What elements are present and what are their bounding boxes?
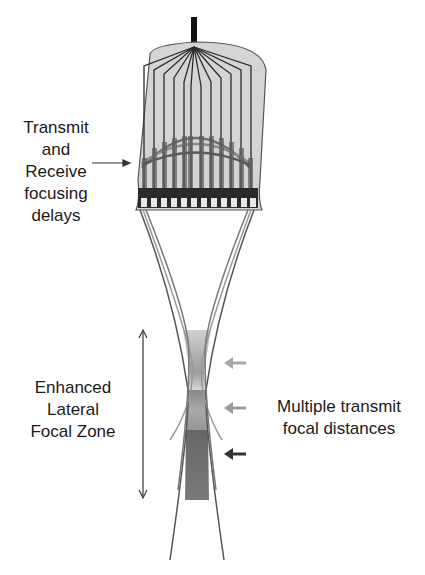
delays-label-line: delays — [10, 205, 102, 227]
focal-arrow-1 — [224, 357, 246, 369]
focal-label-line: focal distances — [254, 418, 424, 440]
delays-label: Transmit and Receive focusing delays — [10, 117, 102, 227]
delays-label-line: focusing — [10, 183, 102, 205]
focal-label-line: Multiple transmit — [254, 396, 424, 418]
focal-distances-label: Multiple transmit focal distances — [254, 396, 424, 440]
zone-label-line: Enhanced — [18, 377, 128, 399]
delays-label-line: Receive — [10, 161, 102, 183]
focal-arrow-2 — [224, 402, 246, 414]
zone-label-line: Focal Zone — [18, 421, 128, 443]
transducer-array — [138, 188, 258, 208]
focal-zone-double-arrow — [139, 330, 147, 498]
focal-arrow-3 — [224, 448, 246, 460]
zone-label: Enhanced Lateral Focal Zone — [18, 377, 128, 443]
delays-label-line: and — [10, 139, 102, 161]
delays-label-line: Transmit — [10, 117, 102, 139]
zone-label-line: Lateral — [18, 399, 128, 421]
beam-focusing-diagram — [0, 0, 425, 575]
